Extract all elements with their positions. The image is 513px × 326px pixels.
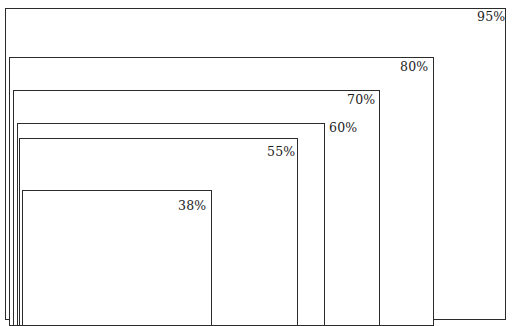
rectangle-label-38: 38% [178,200,206,213]
rectangle-label-70: 70% [347,94,375,107]
nested-rectangles-figure: 95% 80% 70% 60% 55% 38% [0,0,513,326]
rectangle-label-95: 95% [477,11,505,24]
rectangle-label-60: 60% [329,122,357,135]
rectangle-label-55: 55% [267,146,295,159]
rectangle-label-80: 80% [400,61,428,74]
